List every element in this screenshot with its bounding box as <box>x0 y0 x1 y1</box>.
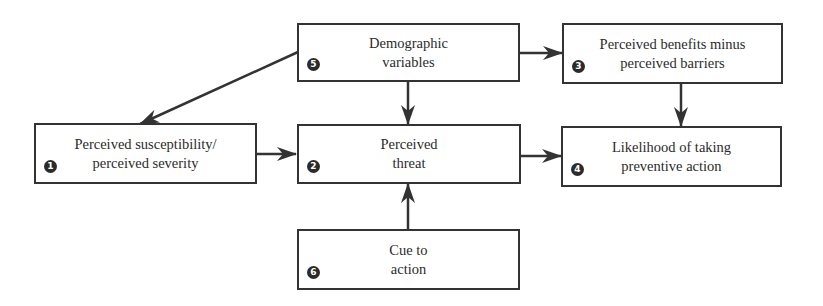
node-cue-to-action: Cue to action 6 <box>297 229 520 290</box>
node-label: Perceived threat <box>380 135 437 173</box>
number-badge-icon: 2 <box>307 160 320 173</box>
number-badge-icon: 6 <box>307 266 320 279</box>
node-label: Cue to action <box>389 241 427 279</box>
number-badge-icon: 3 <box>572 60 585 73</box>
node-likelihood-preventive-action: Likelihood of taking preventive action 4 <box>561 126 782 187</box>
node-perceived-susceptibility: Perceived susceptibility/ perceived seve… <box>34 123 257 184</box>
node-label: Perceived benefits minus perceived barri… <box>600 35 746 73</box>
number-badge-icon: 1 <box>44 160 57 173</box>
node-demographic-variables: Demographic variables 5 <box>297 23 520 82</box>
arrow-demographic-to-susceptibility <box>140 52 298 124</box>
number-badge-icon: 5 <box>307 58 320 71</box>
health-belief-model-diagram: Perceived susceptibility/ perceived seve… <box>0 0 823 306</box>
node-benefits-minus-barriers: Perceived benefits minus perceived barri… <box>562 23 783 84</box>
node-label: Demographic variables <box>369 34 448 72</box>
node-label: Likelihood of taking preventive action <box>612 138 731 176</box>
node-label: Perceived susceptibility/ perceived seve… <box>74 135 216 173</box>
number-badge-icon: 4 <box>571 163 584 176</box>
node-perceived-threat: Perceived threat 2 <box>297 124 521 184</box>
